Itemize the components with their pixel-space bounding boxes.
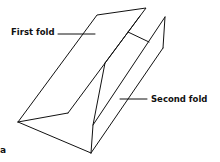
folded-sheet-drawing xyxy=(0,0,220,162)
second-fold-label: Second fold xyxy=(151,94,207,104)
first-fold-label: First fold xyxy=(11,27,55,37)
figure-letter: a xyxy=(0,145,6,155)
second-panel-outline xyxy=(91,63,105,153)
first-panel-outline xyxy=(18,8,146,122)
